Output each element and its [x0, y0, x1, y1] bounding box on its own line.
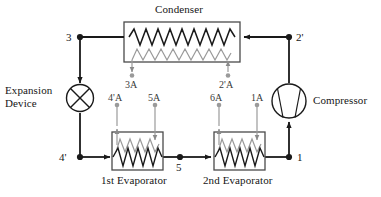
- state-point-label-1: 1: [297, 151, 303, 163]
- expansion-device-component[interactable]: [67, 85, 94, 112]
- expansion-device-label-line1: Expansion: [5, 84, 69, 97]
- state-point-label-4p: 4': [59, 151, 67, 163]
- evaporator2-component[interactable]: [214, 103, 265, 170]
- sensor-dot-2pA: [226, 73, 231, 78]
- sensor-label-6A: 6A: [210, 92, 222, 104]
- condenser-component[interactable]: [124, 22, 240, 78]
- sensor-label-1A: 1A: [251, 92, 263, 104]
- condenser-label: Condenser: [155, 3, 203, 15]
- state-point-label-5: 5: [176, 161, 182, 173]
- compressor-component[interactable]: [272, 84, 306, 118]
- node-dot-4p: [77, 154, 83, 160]
- state-point-label-2p: 2': [296, 31, 304, 43]
- node-dot-1: [286, 154, 292, 160]
- node-dot-2p: [286, 34, 292, 40]
- node-dot-5: [177, 154, 183, 160]
- sensor-label-2pA: 2'A: [219, 79, 233, 91]
- sensor-label-3A: 3A: [125, 79, 137, 91]
- evaporator1-label: 1st Evaporator: [101, 174, 167, 186]
- refrigeration-cycle-diagram: Condenser Expansion Device Compressor 1s…: [0, 0, 381, 197]
- node-dot-3: [77, 34, 83, 40]
- sensor-dot-3A: [130, 73, 135, 78]
- sensor-label-4pA: 4'A: [108, 92, 122, 104]
- sensor-label-5A: 5A: [148, 92, 160, 104]
- compressor-label: Compressor: [313, 94, 367, 106]
- expansion-device-label-line2: Device: [5, 97, 69, 110]
- state-point-label-3: 3: [66, 31, 72, 43]
- evaporator2-label: 2nd Evaporator: [203, 174, 273, 186]
- evaporator1-component[interactable]: [112, 103, 163, 170]
